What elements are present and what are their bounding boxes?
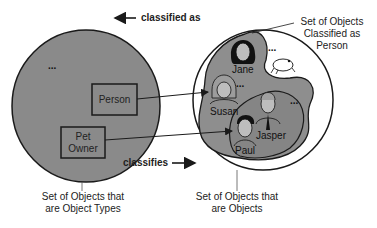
jasper-label: Jasper bbox=[256, 130, 286, 142]
objects-ellipsis-top: ... bbox=[268, 42, 276, 54]
object-types-caption-line2: are Object Types bbox=[45, 203, 120, 214]
paul-label: Paul bbox=[235, 145, 255, 157]
objects-caption-line1: Set of Objects that bbox=[196, 191, 278, 202]
classified-caption-line3: Person bbox=[316, 40, 348, 51]
classified-as-label: classified as bbox=[141, 12, 200, 24]
objects-ellipsis-right: ... bbox=[290, 95, 298, 107]
objects-ellipsis-mid: ... bbox=[236, 78, 244, 90]
classifies-label: classifies bbox=[123, 157, 168, 169]
objects-caption-line2: are Objects bbox=[211, 203, 262, 214]
classified-as-person-caption: Set of Objects Classified as Person bbox=[292, 16, 372, 52]
object-types-caption: Set of Objects that are Object Types bbox=[23, 191, 143, 215]
classified-caption-line1: Set of Objects bbox=[301, 16, 364, 27]
person-type-label: Person bbox=[92, 94, 137, 106]
types-ellipsis: ... bbox=[48, 60, 56, 72]
jane-label: Jane bbox=[232, 64, 254, 76]
susan-label: Susan bbox=[210, 106, 238, 118]
pet-owner-line2: Owner bbox=[68, 143, 97, 154]
objects-caption: Set of Objects that are Objects bbox=[177, 191, 297, 215]
pet-owner-type-label: Pet Owner bbox=[61, 131, 105, 155]
pet-owner-line1: Pet bbox=[75, 131, 90, 142]
object-types-caption-line1: Set of Objects that bbox=[42, 191, 124, 202]
classified-caption-line2: Classified as bbox=[304, 28, 361, 39]
